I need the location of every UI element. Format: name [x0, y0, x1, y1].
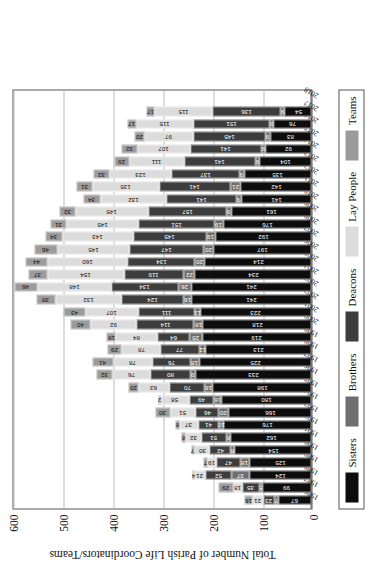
stacked-bar[interactable]: 76915111517: [127, 119, 311, 129]
bar-segment-brothers[interactable]: 18: [193, 319, 202, 329]
stacked-bar[interactable]: 21312777829: [107, 344, 312, 354]
bar-segment-brothers[interactable]: 12: [194, 307, 200, 317]
stacked-bar[interactable]: 2339807632: [96, 370, 311, 380]
bar-segment-deacons[interactable]: 124: [121, 294, 183, 304]
bar-group[interactable]: 769151115172016: [13, 117, 311, 130]
bar-group[interactable]: 549136115172017: [13, 105, 311, 118]
bar-segment-lay-people[interactable]: 84: [115, 332, 157, 342]
bar-group[interactable]: 219256484181999: [13, 330, 311, 343]
bar-segment-brothers[interactable]: 9: [190, 370, 195, 380]
bar-segment-deacons[interactable]: 111: [138, 307, 194, 317]
bar-segment-brothers[interactable]: 7: [274, 495, 278, 505]
bar-segment-sisters[interactable]: 166: [228, 407, 311, 417]
bar-segment-lay-people[interactable]: 148: [37, 282, 111, 292]
bar-group[interactable]: 18016495821994: [13, 393, 311, 406]
bar-segment-sisters[interactable]: 218: [202, 319, 311, 329]
bar-segment-sisters[interactable]: 161: [231, 206, 312, 216]
bar-group[interactable]: 1548423071990: [13, 443, 311, 456]
stacked-bar[interactable]: 19816706320: [128, 382, 312, 392]
bar-segment-sisters[interactable]: 214: [204, 257, 311, 267]
bar-segment-sisters[interactable]: 176: [223, 219, 311, 229]
bar-segment-deacons[interactable]: 77: [160, 344, 199, 354]
bar-group[interactable]: 14221141135312011: [13, 180, 311, 193]
bar-segment-deacons[interactable]: 23: [263, 495, 275, 505]
bar-segment-deacons[interactable]: 52: [205, 470, 231, 480]
bar-segment-teams[interactable]: 31: [76, 181, 92, 191]
bar-segment-teams[interactable]: 44: [25, 257, 47, 267]
bar-segment-lay-people[interactable]: 21: [252, 495, 263, 505]
bar-segment-deacons[interactable]: 141: [159, 181, 230, 191]
bar-group[interactable]: 2018: [13, 92, 311, 105]
legend-item-sisters[interactable]: Sisters: [345, 438, 358, 502]
bar-segment-sisters[interactable]: 223: [200, 307, 312, 317]
bar-segment-sisters[interactable]: 162: [230, 432, 311, 442]
bar-segment-brothers[interactable]: 19: [214, 219, 224, 229]
bar-segment-deacons[interactable]: 119: [124, 269, 184, 279]
bar-segment-deacons[interactable]: 145: [133, 231, 206, 241]
bar-segment-brothers[interactable]: 9: [265, 131, 270, 141]
bar-segment-brothers[interactable]: 10: [218, 420, 223, 430]
bar-group[interactable]: 1359137123322012: [13, 167, 311, 180]
bar-segment-brothers[interactable]: 26: [178, 282, 191, 292]
stacked-bar[interactable]: 141914113234: [83, 194, 312, 204]
bar-segment-teams[interactable]: 8: [181, 432, 185, 442]
bar-group[interactable]: 19219145143342007: [13, 230, 311, 243]
bar-group[interactable]: 929141107322014: [13, 142, 311, 155]
legend-item-brothers[interactable]: Brothers: [345, 353, 358, 426]
bar-segment-sisters[interactable]: 241: [191, 294, 312, 304]
bar-segment-brothers[interactable]: 25: [189, 332, 202, 342]
bar-segment-brothers[interactable]: 18: [190, 357, 199, 367]
bar-segment-lay-people[interactable]: 132: [100, 194, 166, 204]
bar-segment-deacons[interactable]: 141: [190, 144, 261, 154]
stacked-bar[interactable]: 2231211110743: [63, 307, 311, 317]
bar-segment-sisters[interactable]: 141: [241, 194, 312, 204]
bar-segment-teams[interactable]: 43: [63, 307, 85, 317]
bar-segment-brothers[interactable]: 20: [203, 244, 213, 254]
legend-item-lay-people[interactable]: Lay People: [345, 171, 358, 256]
bar-segment-deacons[interactable]: 147: [129, 244, 203, 254]
bar-segment-deacons[interactable]: 47: [216, 457, 240, 467]
bar-segment-teams[interactable]: 38: [36, 294, 55, 304]
bar-segment-lay-people[interactable]: 132: [55, 294, 121, 304]
bar-segment-lay-people[interactable]: 143: [62, 231, 134, 241]
bar-group[interactable]: 1628513281991: [13, 431, 311, 444]
bar-segment-brothers[interactable]: 20: [218, 407, 228, 417]
bar-segment-sisters[interactable]: 197: [213, 244, 312, 254]
bar-segment-sisters[interactable]: 213: [205, 344, 312, 354]
stacked-bar[interactable]: 2342211915437: [28, 269, 311, 279]
bar-segment-sisters[interactable]: 124: [249, 470, 311, 480]
bar-segment-teams[interactable]: 46: [14, 282, 37, 292]
stacked-bar[interactable]: 1921914514334: [45, 231, 312, 241]
stacked-bar[interactable]: 92914110732: [121, 144, 312, 154]
bar-segment-teams[interactable]: 46: [34, 244, 57, 254]
bar-group[interactable]: 1419141132342010: [13, 192, 311, 205]
bar-segment-brothers[interactable]: 16: [213, 395, 221, 405]
bar-group[interactable]: 21420134160442005: [13, 255, 311, 268]
bar-segment-teams[interactable]: 34: [45, 231, 62, 241]
bar-group[interactable]: 23398076321996: [13, 368, 311, 381]
bar-segment-sisters[interactable]: 92: [265, 144, 311, 154]
bar-segment-brothers[interactable]: 9: [236, 194, 241, 204]
bar-segment-lay-people[interactable]: 115: [154, 106, 212, 116]
bar-group[interactable]: 17610413781992: [13, 418, 311, 431]
stacked-bar[interactable]: 1801649582: [158, 395, 312, 405]
bar-segment-sisters[interactable]: 192: [215, 231, 311, 241]
bar-segment-sisters[interactable]: 234: [194, 269, 311, 279]
bar-segment-teams[interactable]: 7: [203, 457, 207, 467]
bar-group[interactable]: 1619157145322009: [13, 205, 311, 218]
bar-group[interactable]: 12518471971989: [13, 456, 311, 469]
bar-segment-teams[interactable]: 32: [96, 370, 112, 380]
stacked-bar[interactable]: 16620465130: [155, 407, 312, 417]
stacked-bar[interactable]: 22518767841: [92, 357, 311, 367]
bar-segment-teams[interactable]: 20: [128, 382, 138, 392]
stacked-bar[interactable]: 1422114113531: [76, 181, 311, 191]
bar-segment-deacons[interactable]: 141: [166, 194, 237, 204]
bar-segment-deacons[interactable]: 70: [169, 382, 204, 392]
bar-segment-deacons[interactable]: 134: [127, 257, 194, 267]
bar-segment-lay-people[interactable]: 107: [137, 144, 191, 154]
bar-group[interactable]: 2181811492402000: [13, 318, 311, 331]
bar-segment-lay-people[interactable]: 92: [90, 319, 136, 329]
bar-segment-lay-people[interactable]: 160: [47, 257, 127, 267]
bar-segment-deacons[interactable]: 76: [152, 357, 190, 367]
bar-segment-sisters[interactable]: 241: [191, 282, 312, 292]
